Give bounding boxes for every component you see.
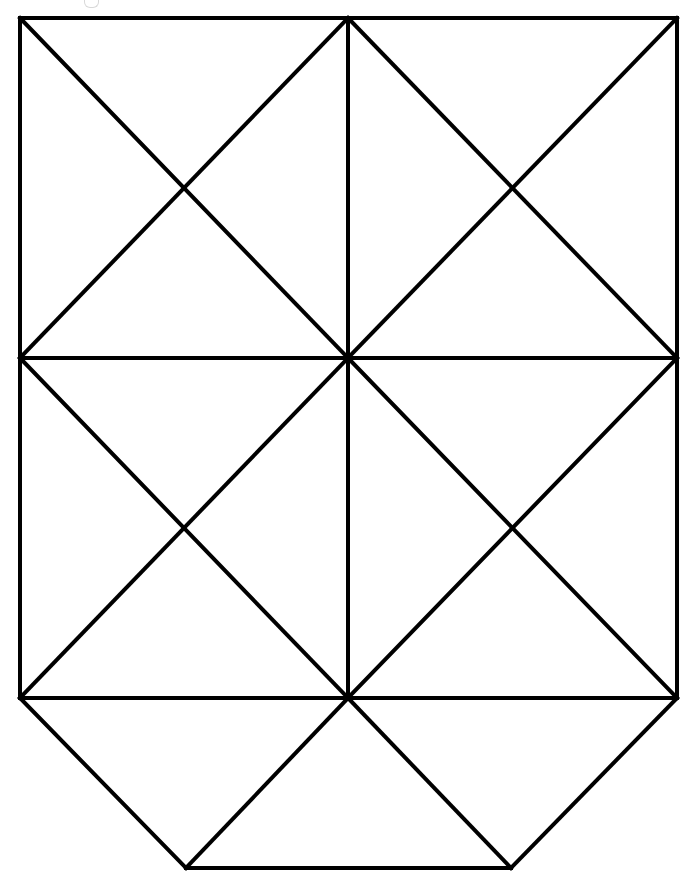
diagram-canvas xyxy=(0,0,700,888)
diagram-svg xyxy=(0,0,700,888)
